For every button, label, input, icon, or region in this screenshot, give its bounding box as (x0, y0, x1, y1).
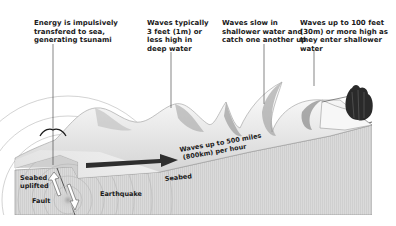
seabed-uplifted-label-line2: uplifted (20, 182, 49, 190)
fault-label: Fault (32, 197, 50, 205)
callout-energy: Energy is impulsively transfered to sea,… (34, 19, 118, 45)
tsunami-diagram: Waves up to 500 miles (800km) per hour S… (0, 0, 396, 226)
callout-slow-waves: Waves slow in shallower water and catch … (222, 19, 306, 45)
seabed-uplifted-label-line1: Seabed (20, 174, 48, 182)
earthquake-label: Earthquake (100, 190, 143, 198)
callout-deep-water: Waves typically 3 feet (1m) or less high… (147, 19, 209, 53)
coastal-trees (345, 85, 372, 121)
callout-tall-waves: Waves up to 100 feet (30m) or more high … (300, 19, 396, 53)
